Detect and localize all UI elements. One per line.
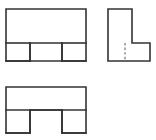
drawing-sheet [0,0,156,140]
orthographic-drawing-canvas [0,0,156,140]
